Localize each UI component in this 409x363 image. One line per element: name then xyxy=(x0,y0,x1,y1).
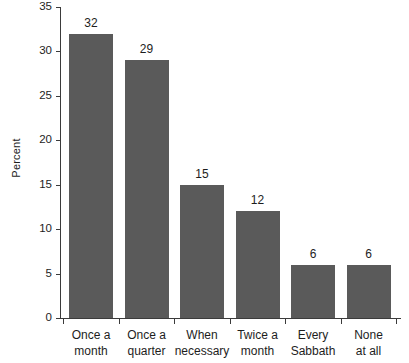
x-tick-mark xyxy=(230,319,231,324)
category-label-3: Twice amonth xyxy=(227,327,289,359)
bar xyxy=(125,60,169,318)
y-tick-30: 30 xyxy=(0,51,61,52)
y-tick-35: 35 xyxy=(0,7,61,8)
category-label-line: at all xyxy=(338,343,400,359)
bar-value-label: 15 xyxy=(180,167,224,181)
y-tick-label: 0 xyxy=(46,310,52,325)
category-label-line: necessary xyxy=(171,343,233,359)
bar xyxy=(180,185,224,318)
y-tick-0: 0 xyxy=(0,318,61,319)
bar xyxy=(347,265,391,318)
category-label-line: Sabbath xyxy=(282,343,344,359)
y-tick-mark xyxy=(56,274,61,275)
bar-chart: Percent 05101520253035 3229151266 Once a… xyxy=(0,0,409,363)
bar-value-label: 6 xyxy=(347,247,391,261)
y-tick-label: 35 xyxy=(39,0,52,14)
category-label-line: Every xyxy=(282,327,344,343)
x-tick-mark xyxy=(341,319,342,324)
category-label-line: When xyxy=(171,327,233,343)
y-tick-label: 5 xyxy=(46,266,52,281)
y-tick-mark xyxy=(56,185,61,186)
bar-value-label: 12 xyxy=(236,193,280,207)
x-tick-mark xyxy=(285,319,286,324)
bar xyxy=(236,211,280,318)
y-tick-mark xyxy=(56,229,61,230)
y-tick-mark xyxy=(56,7,61,8)
category-label-line: quarter xyxy=(116,343,178,359)
category-label-1: Once aquarter xyxy=(116,327,178,359)
category-label-2: Whennecessary xyxy=(171,327,233,359)
y-tick-mark xyxy=(56,51,61,52)
y-tick-5: 5 xyxy=(0,274,61,275)
y-axis-line xyxy=(60,7,61,319)
category-label-4: EverySabbath xyxy=(282,327,344,359)
bar-value-label: 29 xyxy=(125,42,169,56)
y-tick-label: 25 xyxy=(39,88,52,103)
bar-value-label: 6 xyxy=(291,247,335,261)
bar xyxy=(291,265,335,318)
category-label-5: Noneat all xyxy=(338,327,400,359)
y-tick-10: 10 xyxy=(0,229,61,230)
y-tick-25: 25 xyxy=(0,96,61,97)
category-label-0: Once amonth xyxy=(60,327,122,359)
x-tick-mark xyxy=(119,319,120,324)
y-tick-mark xyxy=(56,96,61,97)
x-tick-mark xyxy=(63,319,64,324)
bar-value-label: 32 xyxy=(69,16,113,30)
y-tick-label: 15 xyxy=(39,177,52,192)
y-tick-20: 20 xyxy=(0,140,61,141)
category-label-line: month xyxy=(227,343,289,359)
x-tick-mark xyxy=(174,319,175,324)
y-tick-label: 30 xyxy=(39,43,52,58)
category-label-line: None xyxy=(338,327,400,343)
bar xyxy=(69,34,113,318)
y-tick-label: 10 xyxy=(39,221,52,236)
y-tick-mark xyxy=(56,140,61,141)
y-tick-label: 20 xyxy=(39,132,52,147)
y-tick-15: 15 xyxy=(0,185,61,186)
category-label-line: month xyxy=(60,343,122,359)
category-label-line: Once a xyxy=(60,327,122,343)
category-label-line: Once a xyxy=(116,327,178,343)
y-axis-title: Percent xyxy=(10,108,22,208)
x-tick-mark xyxy=(396,319,397,324)
category-label-line: Twice a xyxy=(227,327,289,343)
y-tick-mark xyxy=(56,318,61,319)
